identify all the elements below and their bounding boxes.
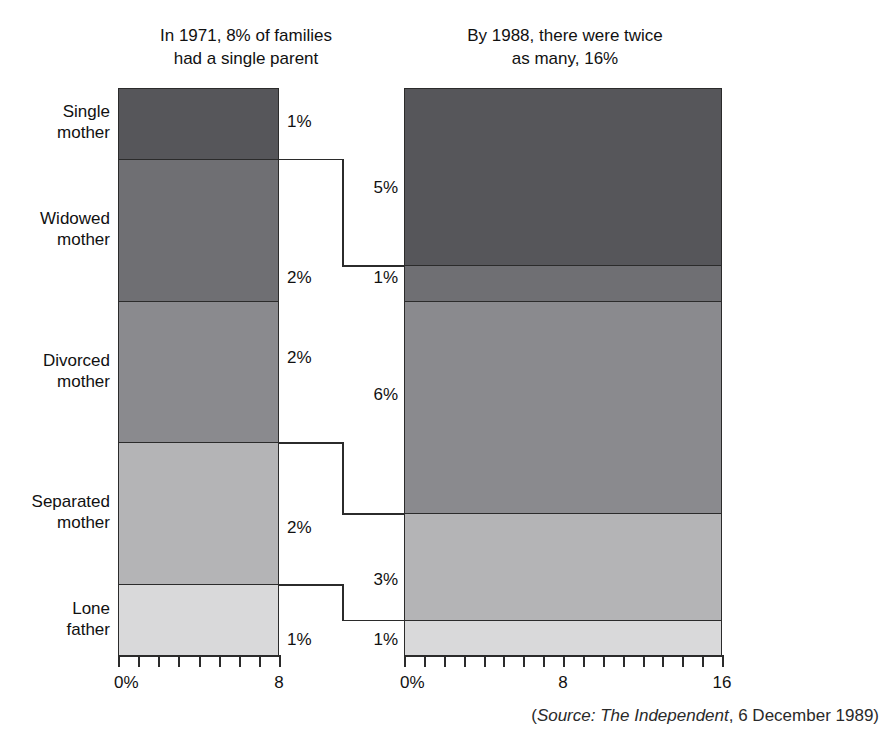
axis-1971-tick: [178, 655, 180, 667]
source-publication: Source: The Independent: [537, 706, 729, 725]
value-label-1988-divorced-mother: 6%: [328, 385, 398, 405]
connector-vertical: [342, 159, 344, 267]
bar-segment-divorced-mother: [404, 301, 722, 515]
value-label-1971-widowed-mother: 2%: [287, 268, 312, 288]
axis-1988-tick-label: 16: [698, 673, 746, 693]
axis-1971-tick: [279, 655, 281, 667]
chart-canvas: In 1971, 8% of families had a single par…: [0, 0, 891, 750]
axis-1971-tick: [259, 655, 261, 667]
bar-segment-lone-father: [404, 620, 722, 656]
value-label-1988-separated-mother: 3%: [328, 570, 398, 590]
axis-1988-tick: [424, 655, 426, 667]
axis-1988-tick: [464, 655, 466, 667]
source-date: , 6 December 1989): [729, 706, 879, 725]
connector-vertical: [342, 442, 344, 514]
chart-title-1971: In 1971, 8% of families had a single par…: [96, 24, 396, 70]
connector-horizontal-right: [342, 265, 404, 267]
bar-segment-single-mother: [404, 88, 722, 266]
value-label-1988-widowed-mother: 1%: [328, 268, 398, 288]
category-label-lone-father: Lone father: [10, 598, 110, 640]
axis-1988-tick: [702, 655, 704, 667]
bar-segment-widowed-mother: [404, 265, 722, 301]
axis-1988-tick: [643, 655, 645, 667]
category-label-divorced-mother: Divorced mother: [10, 350, 110, 392]
category-label-separated-mother: Separated mother: [10, 491, 110, 533]
source-note: (Source: The Independent, 6 December 198…: [0, 706, 879, 726]
axis-1988-tick: [404, 655, 406, 667]
value-label-1971-separated-mother: 2%: [287, 518, 312, 538]
value-label-1971-lone-father: 1%: [287, 630, 312, 650]
axis-1988-tick: [503, 655, 505, 667]
bar-segment-separated-mother: [404, 513, 722, 620]
category-label-single-mother: Single mother: [10, 101, 110, 143]
axis-1971-tick-label: 8: [255, 673, 303, 693]
value-label-1988-single-mother: 5%: [328, 178, 398, 198]
axis-1988-tick: [543, 655, 545, 667]
bar-segment-widowed-mother: [118, 159, 279, 302]
value-label-1971-single-mother: 1%: [287, 112, 312, 132]
connector-horizontal-right: [342, 620, 404, 622]
axis-1971-tick: [158, 655, 160, 667]
bar-segment-separated-mother: [118, 442, 279, 585]
axis-1988-tick: [523, 655, 525, 667]
bar-segment-lone-father: [118, 584, 279, 656]
axis-1971-tick: [118, 655, 120, 667]
bar-segment-divorced-mother: [118, 301, 279, 444]
axis-1988-tick: [662, 655, 664, 667]
bar-segment-single-mother: [118, 88, 279, 160]
chart-title-1988: By 1988, there were twice as many, 16%: [400, 24, 730, 70]
axis-1971-tick: [239, 655, 241, 667]
connector-horizontal-left: [279, 442, 342, 444]
axis-1988-tick: [583, 655, 585, 667]
axis-1988-tick-label: 8: [539, 673, 587, 693]
axis-1971-tick: [138, 655, 140, 667]
axis-1988-tick: [682, 655, 684, 667]
axis-1988-tick-label: 0%: [400, 673, 448, 693]
axis-1988-tick: [563, 655, 565, 667]
axis-1988-tick: [444, 655, 446, 667]
connector-horizontal-left: [279, 159, 342, 161]
axis-1971-tick: [199, 655, 201, 667]
axis-1988-tick: [623, 655, 625, 667]
axis-1988-tick: [484, 655, 486, 667]
axis-1988-tick: [603, 655, 605, 667]
axis-1988-tick: [722, 655, 724, 667]
value-label-1971-divorced-mother: 2%: [287, 348, 312, 368]
axis-1971-tick-label: 0%: [114, 673, 162, 693]
value-label-1988-lone-father: 1%: [328, 630, 398, 650]
connector-horizontal-right: [342, 513, 404, 515]
category-label-widowed-mother: Widowed mother: [10, 208, 110, 250]
axis-1971-tick: [219, 655, 221, 667]
